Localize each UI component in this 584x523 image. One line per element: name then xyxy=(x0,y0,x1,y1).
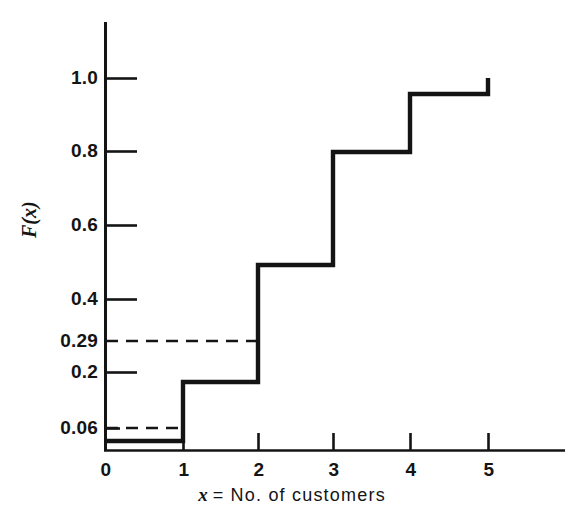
x-axis-ticks xyxy=(184,433,489,450)
x-tick-label-1: 1 xyxy=(179,459,190,481)
x-tick-label-0: 0 xyxy=(101,459,112,481)
x-tick-label-5: 5 xyxy=(484,459,495,481)
x-tick-label-2: 2 xyxy=(254,459,265,481)
y-tick-label-0.4: 0.4 xyxy=(28,288,98,310)
x-axis-label-variable: x xyxy=(198,484,208,505)
chart-figure: 1.0 0.8 0.6 0.4 0.29 0.2 0.06 0 1 2 3 4 … xyxy=(0,0,584,523)
y-tick-label-0.06: 0.06 xyxy=(28,417,98,439)
y-axis-ticks xyxy=(105,79,137,429)
x-axis-label-text: = No. of customers xyxy=(213,485,386,505)
y-axis-label: F(x) xyxy=(18,201,41,238)
y-tick-label-0.2: 0.2 xyxy=(28,361,98,383)
y-tick-label-0.8: 0.8 xyxy=(28,140,98,162)
y-tick-label-1.0: 1.0 xyxy=(28,67,98,89)
y-tick-label-0.29: 0.29 xyxy=(28,330,98,352)
x-axis-label: x = No. of customers xyxy=(0,484,584,506)
x-tick-label-4: 4 xyxy=(406,459,417,481)
x-tick-label-3: 3 xyxy=(329,459,340,481)
cdf-step-curve xyxy=(106,78,488,441)
